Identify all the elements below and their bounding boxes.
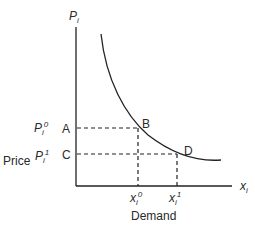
point-d-label: D xyxy=(184,145,193,157)
y-axis-label: Pi xyxy=(69,10,79,22)
point-b-label: B xyxy=(142,118,150,130)
x-axis-label: xi xyxy=(240,180,248,192)
demand-label: Demand xyxy=(131,210,176,222)
demand-diagram xyxy=(0,0,255,225)
point-c-label: C xyxy=(62,149,71,161)
demand-curve xyxy=(101,34,221,160)
quantity-x1-label: xi1 xyxy=(169,192,181,204)
point-a-label: A xyxy=(62,123,70,135)
price-p0-label: Pi0 xyxy=(34,122,48,134)
quantity-x0-label: xi0 xyxy=(130,192,142,204)
price-label: Price xyxy=(3,155,30,167)
price-p1-label: Pi1 xyxy=(35,150,49,162)
